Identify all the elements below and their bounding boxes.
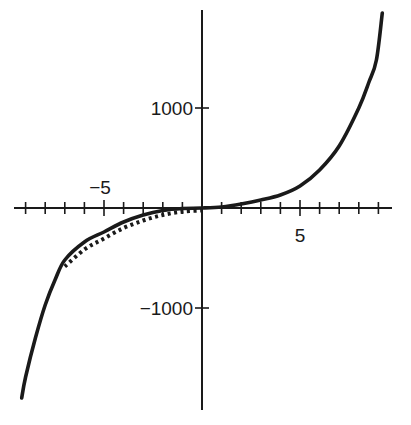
axes bbox=[14, 10, 392, 410]
x-tick-label: 5 bbox=[295, 225, 306, 246]
y-tick-label: −1000 bbox=[140, 298, 193, 319]
y-tick-label: 1000 bbox=[151, 98, 193, 119]
chart: −551000−1000 bbox=[0, 0, 411, 425]
x-tick-label: −5 bbox=[89, 177, 111, 198]
